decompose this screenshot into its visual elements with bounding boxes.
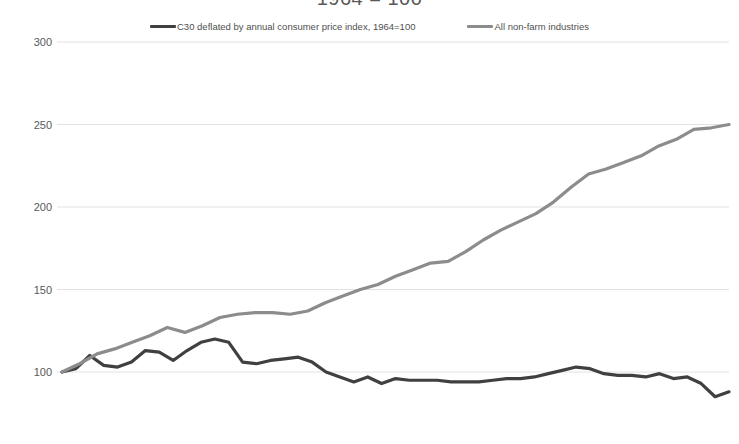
series-lines [62,125,729,397]
y-axis-tick-label: 150 [14,284,52,296]
gridlines [57,42,729,372]
series-line-c30-deflated [62,339,729,397]
legend-swatch-c30-deflated [150,25,176,29]
plot-area [57,42,729,373]
y-axis-tick-label: 300 [14,36,52,48]
chart-legend: C30 deflated by annual consumer price in… [0,21,739,32]
chart-title: 1964 = 100 [0,0,739,10]
y-axis-tick-label: 100 [14,366,52,378]
y-axis-tick-label: 250 [14,119,52,131]
legend-entry-all-non-farm-industries[interactable]: All non-farm industries [467,21,589,32]
legend-swatch-all-non-farm-industries [467,25,493,29]
series-line-all-non-farm-industries [62,125,729,373]
chart-container: 1964 = 100 C30 deflated by annual consum… [0,0,739,444]
y-axis: 300250200150100 [10,42,52,373]
plot-svg [57,42,729,373]
legend-label-all-non-farm-industries: All non-farm industries [494,21,589,32]
y-axis-tick-label: 200 [14,201,52,213]
legend-entry-c30-deflated[interactable]: C30 deflated by annual consumer price in… [150,21,415,32]
legend-label-c30-deflated: C30 deflated by annual consumer price in… [177,21,415,32]
